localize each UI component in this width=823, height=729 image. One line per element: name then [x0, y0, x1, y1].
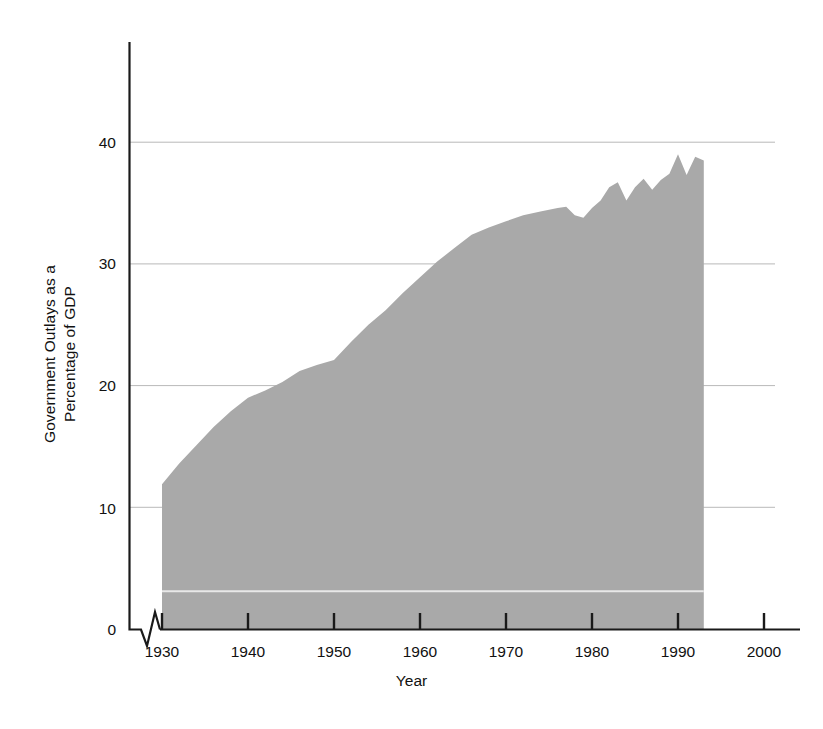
- area-series-path: [162, 154, 704, 629]
- plot-area: [0, 0, 823, 729]
- x-axis-break-icon: [130, 612, 161, 646]
- chart-figure: Government Outlays as a Percentage of GD…: [0, 0, 823, 729]
